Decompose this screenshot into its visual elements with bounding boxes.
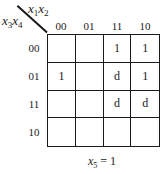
kmap-cell	[48, 35, 76, 63]
kmap-cell	[76, 63, 104, 91]
row-header: 11	[24, 99, 44, 110]
row-header: 01	[24, 71, 44, 82]
column-header: 10	[131, 21, 159, 32]
column-header: 00	[47, 21, 75, 32]
kmap-cell: d	[104, 63, 132, 91]
kmap-cell	[48, 91, 76, 119]
kmap-cell	[76, 35, 104, 63]
kmap-grid: 1 1 1 d 1 d d	[47, 34, 160, 147]
row-header: 10	[24, 127, 44, 138]
map-caption: x5 = 1	[88, 155, 116, 172]
kmap-cell: 1	[104, 35, 132, 63]
kmap-cell	[76, 118, 104, 146]
kmap-cell: d	[104, 91, 132, 119]
kmap-cell	[131, 118, 159, 146]
kmap-cell	[104, 118, 132, 146]
kmap-cell: 1	[48, 63, 76, 91]
kmap-cell: 1	[131, 63, 159, 91]
column-header: 01	[75, 21, 103, 32]
kmap-cell	[48, 118, 76, 146]
row-variable-label: x3x4	[2, 14, 23, 32]
kmap-cell: 1	[131, 35, 159, 63]
kmap-cell: d	[131, 91, 159, 119]
kmap-cell	[76, 91, 104, 119]
row-header: 00	[24, 43, 44, 54]
column-header: 11	[103, 21, 131, 32]
